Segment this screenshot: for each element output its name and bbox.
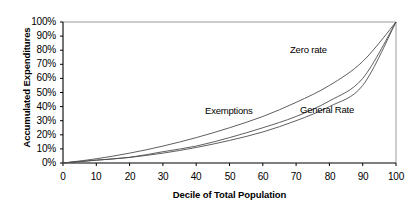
series-label-exemptions: Exemptions bbox=[205, 105, 253, 116]
chart-container: Accumulated Expenditures Decile of Total… bbox=[0, 0, 418, 212]
series-label-general-rate: General Rate bbox=[300, 104, 354, 115]
chart-series-group bbox=[63, 22, 396, 163]
series-curve-exemptions bbox=[63, 22, 396, 163]
series-label-zero-rate: Zero rate bbox=[290, 44, 327, 55]
